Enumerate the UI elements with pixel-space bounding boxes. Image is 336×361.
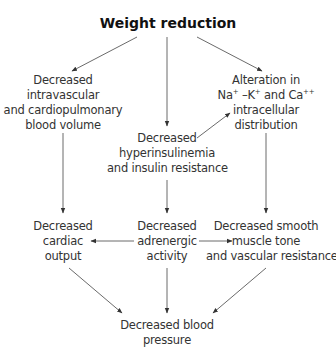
node-line: and insulin resistance [107,161,227,176]
node-line: Decreased [3,219,123,234]
connector-lines [0,0,336,361]
node-blood-volume: Decreased intravascular and cardiopulmon… [3,73,123,133]
node-hyperinsulinemia: Decreased hyperinsulinemia and insulin r… [107,131,227,176]
ion-na: Na [218,88,233,102]
node-ion-alteration: Alteration in Na+ –K+ and Ca++ intracell… [206,73,326,133]
arrow-cardiac-to-bp [69,268,122,313]
node-line: Decreased blood [107,318,227,333]
node-cardiac-output: Decreased cardiac output [3,219,123,264]
node-line: intracellular [206,103,326,118]
node-line: Decreased [107,131,227,146]
node-smooth-muscle: Decreased smooth muscle tone and vascula… [206,219,326,264]
ion-ca: and Ca [260,88,303,102]
arrow-weight-to-ion [197,37,262,71]
node-line: output [3,249,123,264]
diagram-title: Weight reduction [0,16,336,31]
node-line: and cardiopulmonary [3,103,123,118]
node-line-ions: Na+ –K+ and Ca++ [206,88,326,103]
node-line: pressure [107,333,227,348]
ion-ca-charge: ++ [303,88,314,96]
node-line: blood volume [3,118,123,133]
node-line: and vascular resistance [206,249,326,264]
arrow-weight-to-volume [72,37,137,71]
node-line: intravascular [3,88,123,103]
node-line: hyperinsulinemia [107,146,227,161]
node-line: Alteration in [206,73,326,88]
node-line: muscle tone [206,234,326,249]
node-line: Decreased [3,73,123,88]
arrow-smooth-to-bp [213,268,266,313]
node-line: cardiac [3,234,123,249]
node-line: Decreased smooth [206,219,326,234]
node-blood-pressure: Decreased blood pressure [107,318,227,348]
ion-k: –K [238,88,254,102]
